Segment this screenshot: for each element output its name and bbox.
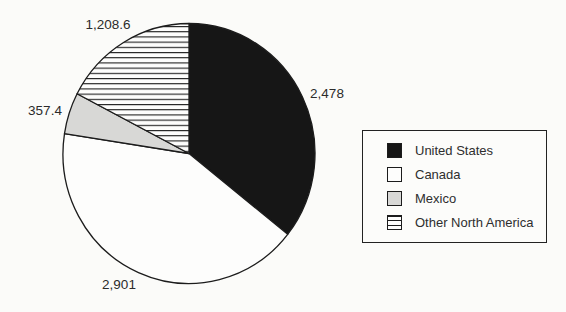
legend-swatch-united-states (387, 143, 402, 158)
legend-swatch-canada (387, 167, 402, 182)
legend-item-canada: Canada (387, 167, 546, 182)
pie-slices (63, 24, 315, 284)
value-label-other-north-america: 1,208.6 (85, 17, 130, 32)
legend-label-mexico: Mexico (415, 191, 456, 206)
legend-swatch-mexico (387, 191, 402, 206)
legend-label-canada: Canada (415, 167, 461, 182)
pie-chart-figure: 1,208.6 357.4 2,478 2,901 United States … (0, 0, 566, 312)
legend-item-mexico: Mexico (387, 191, 546, 206)
value-label-united-states: 2,478 (310, 86, 344, 101)
value-label-mexico: 357.4 (28, 103, 62, 118)
legend-swatch-other-north-america (387, 215, 402, 230)
legend-label-other-north-america: Other North America (415, 215, 534, 230)
legend-item-united-states: United States (387, 143, 546, 158)
legend: United States Canada Mexico Other North … (362, 130, 547, 243)
legend-item-other-north-america: Other North America (387, 215, 546, 230)
value-label-canada: 2,901 (102, 277, 136, 292)
legend-label-united-states: United States (415, 143, 493, 158)
